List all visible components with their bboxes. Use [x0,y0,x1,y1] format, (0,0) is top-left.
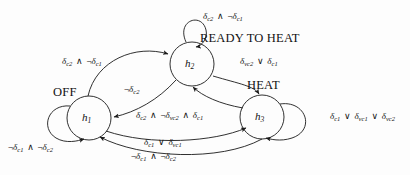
mode-label-heat: HEAT [247,79,280,92]
self-loop-h3 [266,104,306,140]
guard-h1-to-h2: δc2 ∧ ¬δc1 [62,57,102,67]
guard-h1-to-h3: δc1 ∨ δvc1 [144,138,182,148]
guard-h3-to-h1: ¬δc1 ∧ ¬δc2 [131,152,176,162]
state-label-h1: h1 [82,112,91,124]
transition-h3-to-h2 [193,87,243,108]
guard-self-loop-h3: δc1 ∨ δvc1 ∨ δvc2 [330,112,395,122]
state-label-h3: h3 [255,111,264,123]
state-machine-diagram: h1 h2 h3 OFF READY TO HEAT HEAT δc2 ∧ ¬δ… [0,0,410,175]
guard-h3-to-h2: δc2 ∧ ¬δvc2 ∧ δc1 [136,111,203,121]
mode-label-off: OFF [53,86,77,99]
state-label-h2: h2 [185,58,194,70]
guard-self-loop-h1: ¬δc1 ∧ ¬δc2 [8,143,53,153]
guard-h2-to-h1: ¬δc2 [124,85,139,95]
self-loop-h1 [48,106,84,142]
guard-h2-to-h3: δvc2 ∨ δc1 [240,57,278,67]
mode-label-ready-to-heat: READY TO HEAT [200,32,300,45]
guard-self-loop-h2: δc2 ∧ ¬δc1 [203,12,243,22]
